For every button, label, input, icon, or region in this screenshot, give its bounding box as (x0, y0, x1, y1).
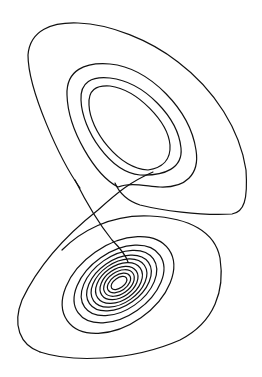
upper-outer-orbit (28, 23, 246, 214)
attractor-plot (0, 0, 262, 377)
lower-ring-2 (60, 229, 179, 339)
upper-ring-3 (89, 86, 170, 170)
lower-ring-7 (94, 259, 144, 306)
lower-ring-1 (44, 217, 191, 354)
lower-ring-10 (109, 274, 129, 293)
lower-ring-8 (99, 264, 139, 302)
lower-ring-4 (76, 244, 161, 323)
attractor-figure (0, 0, 262, 377)
lower-ring-3 (69, 237, 169, 329)
lower-ring-6 (88, 254, 150, 312)
